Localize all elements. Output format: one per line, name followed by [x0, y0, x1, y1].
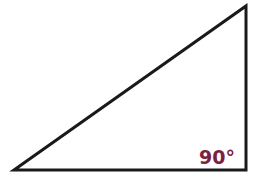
triangle-diagram: 90°	[0, 0, 265, 184]
right-angle-label: 90°	[199, 146, 235, 168]
